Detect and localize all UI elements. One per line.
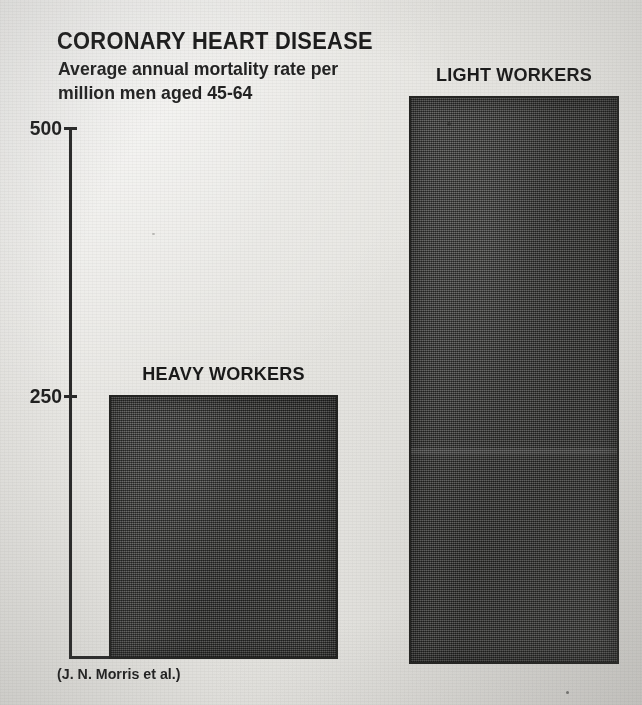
y-tick-label-250: 250 [5, 384, 62, 408]
bar-label-heavy-workers: HEAVY WORKERS [115, 363, 333, 385]
y-tick-mark-250 [64, 395, 77, 398]
source-attribution: (J. N. Morris et al.) [57, 665, 181, 682]
bar-light-workers [409, 96, 619, 664]
plot-area: 500 250 HEAVY WORKERS LIGHT WORKERS [0, 0, 642, 705]
bar-heavy-workers [109, 395, 338, 659]
y-tick-mark-500 [64, 127, 77, 130]
bar-label-light-workers: LIGHT WORKERS [414, 64, 614, 86]
y-tick-label-500: 500 [5, 116, 62, 140]
y-axis-line [69, 127, 72, 659]
chart-figure: CORONARY HEART DISEASE Average annual mo… [0, 0, 642, 705]
